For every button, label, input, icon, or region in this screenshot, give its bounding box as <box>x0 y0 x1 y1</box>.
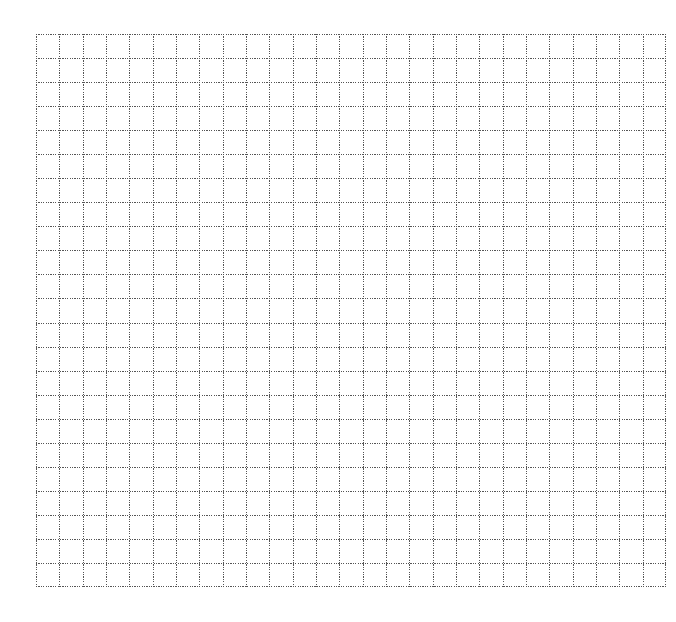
grid-lines <box>36 34 666 587</box>
blank-grid <box>36 34 666 587</box>
